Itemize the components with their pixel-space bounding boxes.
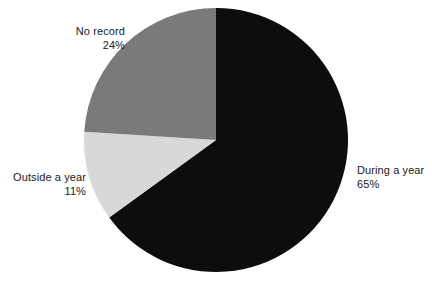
pie-chart: No record 24% Outside a year 11% During … — [0, 0, 432, 291]
pie-label-no-record-name: No record — [25, 25, 125, 39]
pie-label-no-record-value: 24% — [25, 39, 125, 53]
pie-label-outside-a-year-value: 11% — [0, 185, 86, 199]
pie-label-during-a-year-value: 65% — [357, 178, 432, 192]
pie-label-outside-a-year: Outside a year 11% — [0, 171, 86, 198]
pie-label-during-a-year-name: During a year — [357, 164, 432, 178]
pie-label-outside-a-year-name: Outside a year — [0, 171, 86, 185]
pie-label-during-a-year: During a year 65% — [357, 164, 432, 191]
pie-label-no-record: No record 24% — [25, 25, 125, 52]
